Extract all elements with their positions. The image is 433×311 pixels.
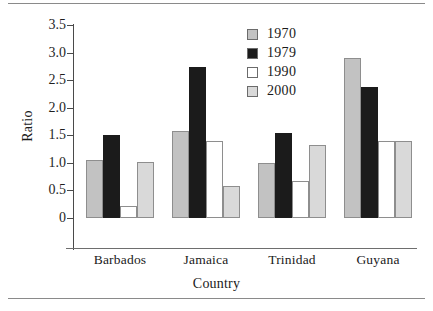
chart-legend: 1970197919902000 — [247, 26, 296, 102]
y-tick-label: 0 — [30, 211, 66, 225]
bar — [172, 131, 189, 218]
bar — [395, 141, 412, 218]
legend-label: 1979 — [267, 46, 296, 60]
legend-label: 1970 — [267, 27, 296, 41]
y-axis-label: Ratio — [20, 86, 36, 166]
y-tick-label: 3.5 — [30, 18, 66, 32]
bar — [275, 133, 292, 218]
bar-group — [344, 25, 412, 218]
legend-item: 1979 — [247, 45, 296, 61]
bar — [120, 206, 137, 218]
x-category-label: Guyana — [324, 252, 432, 268]
y-tick-mark — [67, 218, 73, 219]
bar — [223, 186, 240, 218]
bar-group — [86, 25, 154, 218]
bar — [258, 163, 275, 218]
legend-swatch-icon — [247, 67, 258, 78]
legend-item: 1990 — [247, 64, 296, 80]
bar — [344, 58, 361, 218]
x-axis-line — [66, 248, 417, 249]
bar — [292, 181, 309, 218]
bar — [206, 141, 223, 218]
chart-figure: 00.51.01.52.02.53.03.5 Ratio Country Bar… — [0, 0, 433, 311]
bar-group — [172, 25, 240, 218]
y-tick-label: 0.5 — [30, 183, 66, 197]
legend-item: 2000 — [247, 83, 296, 99]
bar — [137, 162, 154, 218]
plot-area — [73, 25, 417, 218]
bar — [309, 145, 326, 218]
legend-item: 1970 — [247, 26, 296, 42]
bar — [103, 135, 120, 218]
bottom-divider-rule — [8, 298, 425, 299]
legend-swatch-icon — [247, 86, 258, 97]
y-tick-label: 3.0 — [30, 46, 66, 60]
x-axis-label: Country — [0, 276, 433, 292]
legend-label: 2000 — [267, 84, 296, 98]
bar — [86, 160, 103, 218]
legend-label: 1990 — [267, 65, 296, 79]
bar — [378, 141, 395, 218]
top-divider-rule — [8, 3, 425, 4]
legend-swatch-icon — [247, 29, 258, 40]
legend-swatch-icon — [247, 48, 258, 59]
bar — [189, 67, 206, 218]
bar — [361, 87, 378, 218]
